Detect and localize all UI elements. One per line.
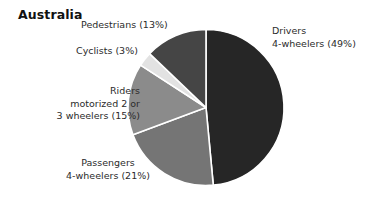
label-pedestrians-line1: Pedestrians (13%) [81,19,168,32]
label-cyclists: Cyclists (3%) [76,45,138,58]
label-passengers-line2: 4-wheelers (21%) [48,170,168,183]
label-pedestrians: Pedestrians (13%) [81,19,168,32]
label-passengers-line1: Passengers [48,157,168,170]
label-riders-line2: motorized 2 or [28,98,140,111]
pie-chart-figure: Australia Drivers 4-wheelers (49%) Pedes… [0,0,374,197]
label-riders-line3: 3 wheelers (15%) [28,110,140,123]
label-riders-line1: Riders [28,85,140,98]
pie-slice [206,30,284,186]
label-drivers-line1: Drivers [272,25,356,38]
label-passengers: Passengers 4-wheelers (21%) [48,157,168,182]
label-cyclists-line1: Cyclists (3%) [76,45,138,58]
label-drivers: Drivers 4-wheelers (49%) [272,25,356,50]
label-riders: Riders motorized 2 or 3 wheelers (15%) [28,85,140,123]
label-drivers-line2: 4-wheelers (49%) [272,38,356,51]
